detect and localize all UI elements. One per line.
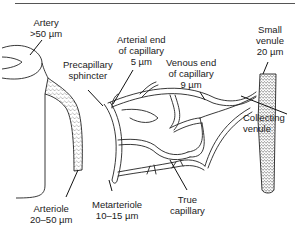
diagram-frame: Artery >50 µm Arterial end of capillary … xyxy=(0,0,304,235)
label-true-capillary: True capillary xyxy=(170,194,205,216)
label-precapillary-sphincter: Precapillary sphincter xyxy=(63,59,113,81)
label-arteriole: Arteriole 20–50 µm xyxy=(30,203,72,225)
label-venous-end: Venous end of capillary 9 µm xyxy=(166,57,216,90)
label-arterial-end: Arterial end of capillary 5 µm xyxy=(117,34,166,67)
label-artery: Artery >50 µm xyxy=(30,17,62,39)
arteriole xyxy=(45,78,82,171)
metarteriole xyxy=(104,102,122,183)
capillary-network xyxy=(108,82,256,176)
label-small-venule: Small venule 20 µm xyxy=(256,24,284,57)
artery xyxy=(2,45,48,198)
label-metarteriole: Metarteriole 10–15 µm xyxy=(92,199,142,221)
label-collecting-venule: Collecting venule xyxy=(243,112,285,134)
